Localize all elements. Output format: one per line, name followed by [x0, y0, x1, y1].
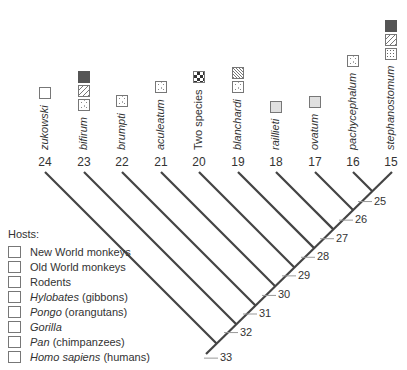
- taxon-label-22: brumpti: [115, 113, 127, 150]
- taxon-label-15: stephanostomum: [384, 66, 396, 150]
- tip-number-19: 19: [228, 155, 248, 169]
- legend-item-gor: Gorilla: [8, 319, 150, 334]
- legend-title: Hosts:: [8, 228, 150, 240]
- host-swatch-hyl: [270, 101, 282, 113]
- tip-number-24: 24: [35, 155, 55, 169]
- legend-swatch-pan: [8, 336, 21, 348]
- taxon-label-17: ovatum: [308, 114, 320, 150]
- host-swatch-gor: [385, 48, 397, 60]
- branch-20: [199, 172, 294, 267]
- host-swatch-hom: [78, 71, 90, 83]
- legend-label: Rodents: [30, 276, 71, 288]
- legend-swatch-nwm: [8, 246, 21, 258]
- node-label-25: 25: [374, 195, 386, 207]
- legend-item-hyl: Hylobates (gibbons): [8, 289, 150, 304]
- legend-item-hom: Homo sapiens (humans): [8, 349, 150, 364]
- legend-item-pon: Pongo (orangutans): [8, 304, 150, 319]
- legend-swatch-rod: [8, 276, 21, 288]
- node-label-33: 33: [220, 351, 232, 363]
- legend-item-owm: Old World monkeys: [8, 259, 150, 274]
- legend-item-rod: Rodents: [8, 274, 150, 289]
- hosts-legend: Hosts: New World monkeysOld World monkey…: [8, 228, 150, 364]
- host-swatch-pan: [78, 85, 90, 97]
- host-swatch-owm: [78, 99, 90, 111]
- taxon-label-21: aculeatum: [154, 99, 166, 150]
- host-swatch-hyl: [309, 96, 321, 108]
- tip-number-17: 17: [305, 155, 325, 169]
- legend-swatch-hyl: [8, 291, 21, 303]
- node-label-29: 29: [298, 269, 310, 281]
- branch-17: [315, 172, 353, 210]
- node-label-28: 28: [317, 250, 329, 262]
- taxon-label-19: blanchardi: [231, 99, 243, 150]
- node-label-32: 32: [240, 326, 252, 338]
- legend-swatch-pon: [8, 306, 21, 318]
- legend-swatch-gor: [8, 321, 21, 333]
- taxon-label-24: zukowski: [38, 105, 50, 150]
- taxon-label-18: raillieti: [269, 119, 281, 150]
- legend-label: Hylobates (gibbons): [30, 291, 128, 303]
- legend-item-nwm: New World monkeys: [8, 244, 150, 259]
- tree-backbone: [206, 172, 392, 354]
- node-label-26: 26: [355, 213, 367, 225]
- node-label-31: 31: [259, 307, 271, 319]
- legend-label: New World monkeys: [30, 246, 131, 258]
- tip-number-15: 15: [381, 155, 401, 169]
- legend-swatch-owm: [8, 261, 21, 273]
- legend-swatch-hom: [8, 351, 21, 363]
- host-swatch-owm: [347, 55, 359, 67]
- legend-label: Pan (chimpanzees): [30, 336, 125, 348]
- host-swatch-owm: [116, 95, 128, 107]
- tip-number-20: 20: [189, 155, 209, 169]
- taxon-label-16: pachycephalum: [346, 73, 358, 150]
- host-swatch-pon: [232, 67, 244, 79]
- legend-item-pan: Pan (chimpanzees): [8, 334, 150, 349]
- tip-number-18: 18: [266, 155, 286, 169]
- branch-19: [238, 172, 314, 248]
- host-swatch-hom: [385, 20, 397, 32]
- host-swatch-owm: [155, 81, 167, 93]
- host-swatch-pan: [385, 34, 397, 46]
- node-label-30: 30: [278, 288, 290, 300]
- host-swatch-owm: [232, 81, 244, 93]
- tip-number-23: 23: [74, 155, 94, 169]
- host-swatch-nwm: [39, 87, 51, 99]
- host-swatch-rod: [193, 71, 205, 83]
- legend-label: Pongo (orangutans): [30, 306, 127, 318]
- legend-label: Old World monkeys: [30, 261, 126, 273]
- tip-number-21: 21: [151, 155, 171, 169]
- legend-label: Gorilla: [30, 321, 62, 333]
- branch-16: [353, 172, 372, 191]
- taxon-label-20: Two species: [192, 89, 204, 150]
- tip-number-16: 16: [343, 155, 363, 169]
- legend-label: Homo sapiens (humans): [30, 351, 150, 363]
- tip-number-22: 22: [112, 155, 132, 169]
- taxon-label-23: bifirum: [77, 117, 89, 150]
- node-label-27: 27: [336, 232, 348, 244]
